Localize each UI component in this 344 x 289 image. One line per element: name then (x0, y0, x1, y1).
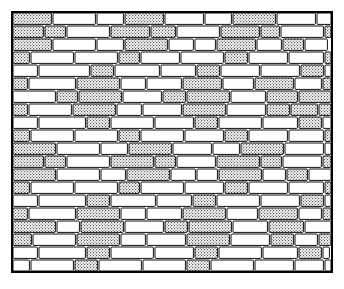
brick (111, 247, 153, 258)
brick (195, 117, 217, 128)
brick (13, 195, 37, 206)
brick (79, 91, 121, 102)
brick (13, 221, 55, 232)
brick (111, 117, 153, 128)
brick (323, 208, 331, 219)
brick (271, 234, 293, 245)
brick (119, 182, 139, 193)
brick (121, 78, 145, 89)
brick (13, 78, 27, 89)
brick (29, 78, 75, 89)
brick (221, 26, 259, 37)
brick (295, 78, 321, 89)
brick (13, 91, 55, 102)
brick (31, 182, 73, 193)
brick (319, 234, 331, 245)
brick (261, 65, 299, 76)
brick (301, 65, 323, 76)
brick (299, 208, 321, 219)
brick (225, 182, 247, 193)
brick (183, 208, 225, 219)
brick (97, 39, 123, 50)
brick (287, 169, 307, 180)
brick (261, 195, 299, 206)
brick (231, 91, 265, 102)
brick (183, 104, 225, 115)
brick (217, 195, 259, 206)
brick (101, 169, 125, 180)
brick (197, 65, 219, 76)
brick (261, 26, 279, 37)
brick (249, 130, 287, 141)
brick (185, 182, 223, 193)
brick (77, 234, 119, 245)
brick (295, 260, 323, 271)
brick (165, 221, 187, 232)
brick (173, 143, 211, 154)
brick (325, 65, 331, 76)
brick (97, 13, 123, 24)
brick (233, 13, 275, 24)
brick (283, 39, 303, 50)
brick (285, 143, 323, 154)
brick (289, 182, 323, 193)
brick (249, 52, 287, 63)
brick (213, 143, 239, 154)
brick (325, 130, 331, 141)
brick (53, 39, 95, 50)
brick (143, 260, 185, 271)
brick (13, 117, 37, 128)
brick (101, 143, 127, 154)
brick (325, 52, 331, 63)
brick (177, 26, 219, 37)
brick (193, 195, 215, 206)
brick (67, 156, 109, 167)
brick (325, 195, 331, 206)
brick (219, 169, 261, 180)
brick (29, 104, 71, 115)
brick (13, 130, 29, 141)
brick (155, 156, 175, 167)
brick (299, 247, 321, 258)
brick (121, 208, 145, 219)
brick (75, 182, 117, 193)
brick (165, 13, 203, 24)
brick (13, 182, 29, 193)
brick (125, 39, 167, 50)
brick (325, 260, 331, 271)
brick (125, 221, 163, 232)
brick (269, 221, 303, 232)
brick (91, 65, 113, 76)
brick (99, 260, 141, 271)
brick (87, 195, 109, 206)
brick (317, 13, 331, 24)
brick (57, 143, 99, 154)
brick (219, 247, 261, 258)
brick (67, 26, 109, 37)
brick (225, 52, 247, 63)
brick (323, 78, 331, 89)
brick (141, 52, 179, 63)
brick (13, 39, 51, 50)
brick (241, 143, 283, 154)
brick (87, 247, 109, 258)
brick (217, 156, 259, 167)
brick (323, 247, 329, 258)
brick (13, 169, 55, 180)
brick (141, 130, 183, 141)
brick (283, 156, 321, 167)
brick (319, 104, 331, 115)
brick (289, 52, 323, 63)
brick (281, 26, 323, 37)
brick (171, 169, 195, 180)
brick (73, 104, 115, 115)
brick (187, 260, 209, 271)
brick (115, 65, 159, 76)
brick (13, 13, 51, 24)
brick (231, 234, 269, 245)
brick (263, 117, 297, 128)
brick (31, 260, 73, 271)
brick (13, 208, 27, 219)
brick (29, 208, 75, 219)
brick (111, 195, 155, 206)
